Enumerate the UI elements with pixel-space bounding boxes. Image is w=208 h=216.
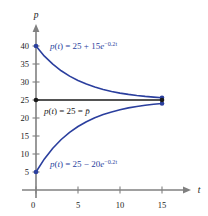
lower-equation-exponent: −0.2t bbox=[104, 158, 117, 165]
endpoint-dot-equilibrium-start bbox=[34, 98, 39, 103]
upper-equation-exponent: −0.2t bbox=[104, 40, 117, 47]
y-tick-label-5: 5 bbox=[25, 167, 29, 177]
y-tick-label-10: 10 bbox=[21, 149, 30, 159]
endpoint-dot-equilibrium-end bbox=[160, 98, 165, 103]
x-axis-label: t bbox=[198, 185, 201, 195]
x-tick-label-0: 0 bbox=[31, 200, 35, 210]
x-tick-label-15: 15 bbox=[158, 200, 167, 210]
endpoint-dot-upper-start bbox=[34, 44, 39, 49]
y-tick-label-30: 30 bbox=[21, 77, 30, 87]
chart-background bbox=[0, 0, 208, 216]
x-tick-label-10: 10 bbox=[116, 200, 125, 210]
y-tick-label-15: 15 bbox=[21, 131, 30, 141]
equilibrium-equation-label: p(t) = 25 = p̄ bbox=[43, 106, 90, 116]
y-tick-label-35: 35 bbox=[21, 59, 30, 69]
exponential-convergence-figure: 40 35 30 25 20 15 10 5 0 5 10 15 p t p(t… bbox=[0, 0, 208, 216]
y-tick-label-40: 40 bbox=[21, 41, 30, 51]
plot-area: 40 35 30 25 20 15 10 5 0 5 10 15 p t p(t… bbox=[0, 0, 208, 216]
x-tick-label-5: 5 bbox=[76, 200, 80, 210]
endpoint-dot-lower-start bbox=[34, 170, 39, 175]
y-tick-label-25: 25 bbox=[21, 95, 30, 105]
y-tick-label-20: 20 bbox=[21, 113, 30, 123]
y-axis-label: p bbox=[33, 10, 39, 20]
